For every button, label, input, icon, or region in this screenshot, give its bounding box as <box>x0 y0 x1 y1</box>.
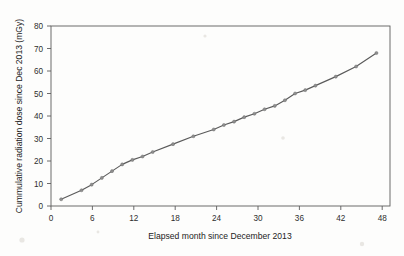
data-point <box>243 116 246 119</box>
y-tick-label: 60 <box>34 67 44 76</box>
x-tick-label: 30 <box>253 214 263 223</box>
x-tick-label: 12 <box>129 214 139 223</box>
x-tick-label: 24 <box>212 214 222 223</box>
scan-noise <box>19 34 364 246</box>
data-point <box>222 123 225 126</box>
data-point <box>80 189 83 192</box>
data-point <box>192 135 195 138</box>
data-point <box>263 108 266 111</box>
x-tick-label: 18 <box>171 214 181 223</box>
data-point <box>334 75 337 78</box>
x-tick-label: 0 <box>49 214 54 223</box>
data-point <box>273 104 276 107</box>
y-tick-label: 10 <box>34 180 44 189</box>
data-point <box>294 92 297 95</box>
data-point <box>314 84 317 87</box>
data-point <box>100 176 103 179</box>
data-line-series-0 <box>61 53 376 199</box>
x-tick-label: 6 <box>90 214 95 223</box>
data-point <box>283 99 286 102</box>
y-axis-title: Cummulative radiation dose since Dec 201… <box>14 19 24 214</box>
y-tick-label: 80 <box>34 22 44 31</box>
y-tick-label: 70 <box>34 45 44 54</box>
y-tick-label: 0 <box>38 202 43 211</box>
x-axis-tick-labels: 0 6 12 18 24 30 36 42 48 <box>49 214 387 223</box>
x-tick-label: 48 <box>378 214 388 223</box>
x-tick-label: 36 <box>295 214 305 223</box>
data-point <box>212 128 215 131</box>
data-point <box>121 163 124 166</box>
data-point <box>151 150 154 153</box>
y-tick-label: 40 <box>34 112 44 121</box>
y-tick-label: 50 <box>34 90 44 99</box>
data-point <box>233 120 236 123</box>
data-point <box>304 89 307 92</box>
figure-container: 0 10 20 30 40 50 60 70 80 0 6 12 <box>0 0 404 256</box>
data-point <box>375 51 378 54</box>
data-point <box>141 155 144 158</box>
data-point <box>131 158 134 161</box>
x-axis-title: Elapsed month since December 2013 <box>148 231 292 241</box>
x-tick-label: 42 <box>336 214 346 223</box>
y-axis-ticks <box>47 26 51 206</box>
data-point <box>60 198 63 201</box>
data-markers-series-0 <box>60 51 378 200</box>
y-tick-label: 30 <box>34 135 44 144</box>
line-chart: 0 10 20 30 40 50 60 70 80 0 6 12 <box>0 0 404 256</box>
data-point <box>171 143 174 146</box>
data-point <box>110 170 113 173</box>
x-axis-ticks <box>51 206 382 210</box>
data-point <box>90 183 93 186</box>
data-point <box>253 112 256 115</box>
data-point <box>355 65 358 68</box>
y-axis-tick-labels: 0 10 20 30 40 50 60 70 80 <box>34 22 44 211</box>
y-tick-label: 20 <box>34 157 44 166</box>
